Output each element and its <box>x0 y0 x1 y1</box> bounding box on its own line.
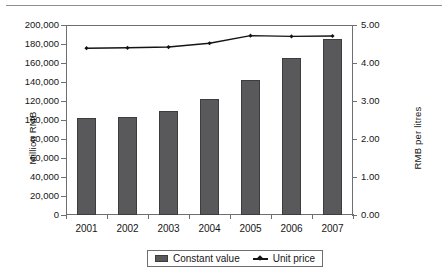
line-marker <box>125 46 129 50</box>
x-axis-label: 2006 <box>271 223 312 234</box>
x-axis-label: 2003 <box>148 223 189 234</box>
y-tick-label-left: 120,000 <box>25 96 59 106</box>
legend-swatch-icon <box>155 255 168 262</box>
legend-item-unit-price: Unit price <box>253 253 315 264</box>
x-axis-label: 2002 <box>107 223 148 234</box>
line-marker <box>207 41 211 45</box>
line-marker <box>248 34 252 38</box>
x-tick <box>353 214 354 219</box>
chart-figure: Million RMB RMB per litres 020,00040,000… <box>0 0 447 276</box>
line-marker <box>166 45 170 49</box>
x-axis-label: 2005 <box>230 223 271 234</box>
y-tick-label-left: 180,000 <box>25 39 59 49</box>
y-tick-label-left: 20,000 <box>30 191 59 201</box>
chart-legend: Constant value Unit price <box>147 250 323 267</box>
line-marker <box>330 34 334 38</box>
y-axis-title-right: RMB per litres <box>412 107 423 170</box>
x-axis-label: 2007 <box>312 223 353 234</box>
legend-line-icon <box>253 255 268 262</box>
line-marker <box>289 34 293 38</box>
legend-item-constant-value: Constant value <box>155 253 240 264</box>
line-series-unit-price <box>66 25 353 215</box>
y-tick-label-right: 5.00 <box>361 20 380 30</box>
y-tick-label-left: 60,000 <box>30 153 59 163</box>
y-tick-label-left: 40,000 <box>30 172 59 182</box>
legend-label-unit-price: Unit price <box>273 253 315 264</box>
plot-area: 020,00040,00060,00080,000100,000120,0001… <box>66 25 353 215</box>
y-tick-label-left: 140,000 <box>25 77 59 87</box>
y-tick-label-right: 3.00 <box>361 96 380 106</box>
y-tick-label-right: 1.00 <box>361 172 380 182</box>
y-tick-label-left: 0 <box>54 210 59 220</box>
y-tick-label-right: 0.00 <box>361 210 380 220</box>
legend-label-constant-value: Constant value <box>173 253 240 264</box>
y-tick-label-left: 100,000 <box>25 115 59 125</box>
page-rule-divider <box>6 5 442 6</box>
y-tick-label-right: 4.00 <box>361 58 380 68</box>
line-marker <box>84 46 88 50</box>
y-tick-label-left: 160,000 <box>25 58 59 68</box>
x-axis-label: 2001 <box>66 223 107 234</box>
x-axis-label: 2004 <box>189 223 230 234</box>
y-tick-label-left: 80,000 <box>30 134 59 144</box>
y-tick-label-right: 2.00 <box>361 134 380 144</box>
y-tick-label-left: 200,000 <box>25 20 59 30</box>
